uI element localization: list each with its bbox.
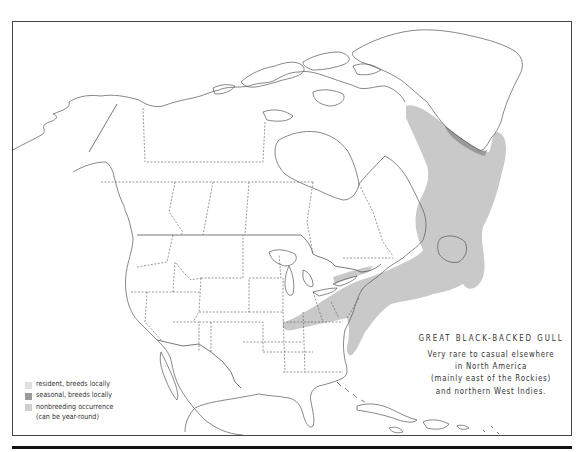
range-note-line: and northern West Indies. (417, 385, 565, 397)
seasonal-swatch-icon (25, 393, 32, 400)
map-frame: GREAT BLACK-BACKED GULL Very rare to cas… (12, 21, 572, 436)
nonbreeding-swatch-icon (25, 404, 32, 411)
legend-label: nonbreeding occurrence (36, 402, 113, 412)
species-info: GREAT BLACK-BACKED GULL Very rare to cas… (405, 333, 572, 397)
map-legend: resident, breeds locally seasonal, breed… (25, 379, 126, 424)
international-borders (89, 104, 381, 388)
range-note-line: in North America (417, 360, 565, 372)
legend-label: seasonal, breeds locally (36, 390, 112, 400)
legend-label: resident, breeds locally (36, 379, 110, 389)
range-note-line: (mainly east of the Rockies) (417, 372, 565, 384)
species-title: GREAT BLACK-BACKED GULL (412, 333, 570, 343)
bottom-rule-divider (12, 446, 572, 449)
range-note-line: Very rare to casual elsewhere (417, 348, 565, 360)
legend-item-seasonal: seasonal, breeds locally (25, 390, 126, 400)
resident-swatch-icon (25, 382, 32, 389)
legend-label-group: nonbreeding occurrence (can be year-roun… (36, 402, 126, 423)
legend-item-resident: resident, breeds locally (25, 379, 126, 389)
legend-label-note: (can be year-round) (36, 412, 113, 422)
nonbreeding-range (283, 105, 506, 355)
legend-item-nonbreeding: nonbreeding occurrence (can be year-roun… (25, 402, 126, 423)
